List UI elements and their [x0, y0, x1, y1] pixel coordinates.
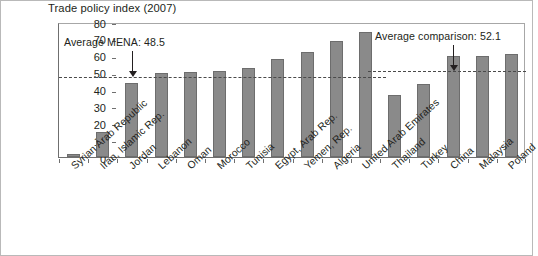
chart-title: Trade policy index (2007) [48, 2, 176, 14]
y-tick-mark [112, 24, 116, 25]
y-tick-label: 40 [94, 84, 106, 98]
y-tick-mark [112, 58, 116, 59]
bar [359, 32, 372, 157]
bar [271, 59, 284, 157]
y-tick-mark [112, 92, 116, 93]
y-tick-mark [112, 142, 116, 143]
x-tick-mark [59, 159, 60, 163]
average-line [368, 71, 526, 72]
y-tick-label: 30 [94, 101, 106, 115]
annotation-arrow [132, 51, 133, 71]
y-tick-mark [112, 108, 116, 109]
y-tick-label: 50 [94, 67, 106, 81]
y-tick-label: 80 [94, 17, 106, 31]
average-line [59, 77, 386, 78]
y-tick-mark [112, 75, 116, 76]
annotation-arrow [453, 45, 454, 65]
annotation-label: Average MENA: 48.5 [64, 36, 165, 48]
bar [213, 71, 226, 157]
annotation-label: Average comparison: 52.1 [375, 30, 501, 42]
y-tick-label: 60 [94, 50, 106, 64]
